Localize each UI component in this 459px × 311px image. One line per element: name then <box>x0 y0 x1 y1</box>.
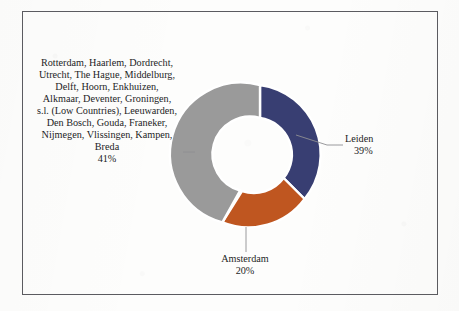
figure-page: Rotterdam, Haarlem, Dordrecht, Utrecht, … <box>0 0 459 311</box>
data-label-amsterdam: Amsterdam 20% <box>186 253 304 277</box>
data-label-amsterdam-percent: 20% <box>186 265 304 277</box>
scan-bleed-through <box>0 294 459 311</box>
data-label-leiden-percent: 39% <box>345 145 431 157</box>
data-label-other-percent: 41% <box>36 153 178 165</box>
pie-slice-amsterdam[interactable] <box>222 178 304 227</box>
data-label-amsterdam-name: Amsterdam <box>186 253 304 265</box>
data-label-leiden-name: Leiden <box>345 133 431 145</box>
pie-slice-leiden[interactable] <box>260 85 321 199</box>
data-label-other-name: Rotterdam, Haarlem, Dordrecht, Utrecht, … <box>36 57 178 153</box>
data-label-other-low-countries: Rotterdam, Haarlem, Dordrecht, Utrecht, … <box>36 57 178 164</box>
data-label-leiden: Leiden 39% <box>345 133 431 157</box>
